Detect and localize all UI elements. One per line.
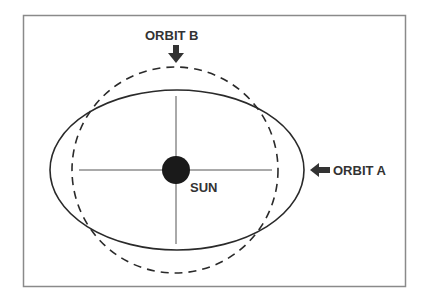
orbit-b-label: ORBIT B	[145, 28, 198, 43]
orbit-a-label: ORBIT A	[333, 163, 387, 178]
orbit-diagram: SUN ORBIT B ORBIT A	[0, 0, 426, 299]
sun-icon	[162, 156, 190, 184]
sun-label: SUN	[190, 180, 217, 195]
